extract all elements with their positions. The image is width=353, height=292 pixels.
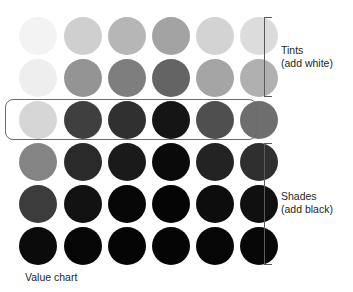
swatch-tint-2-column-3	[108, 17, 146, 55]
tints-label-title: Tints	[281, 44, 333, 57]
swatch-tint-2-column-1	[19, 17, 57, 55]
swatch-hue-column-6	[240, 101, 278, 139]
swatch-tint-2-column-4	[152, 17, 190, 55]
figure-caption: Value chart	[25, 271, 77, 284]
swatch-shade-1-column-2	[64, 143, 102, 181]
swatch-hue-column-2	[64, 101, 102, 139]
swatch-shade-3-column-5	[196, 227, 234, 265]
swatch-shade-3-column-4	[152, 227, 190, 265]
swatch-shade-1-column-5	[196, 143, 234, 181]
shades-label-title: Shades	[281, 190, 333, 203]
swatch-tint-1-column-1	[19, 59, 57, 97]
swatch-tint-1-column-6	[240, 59, 278, 97]
shades-bracket	[264, 143, 272, 265]
swatch-grid	[0, 0, 270, 270]
value-chart-figure: Tints (add white) Shades (add black) Val…	[0, 0, 353, 292]
swatch-tint-2-column-5	[196, 17, 234, 55]
swatch-row-tint-1	[0, 59, 270, 99]
swatch-tint-1-column-4	[152, 59, 190, 97]
swatch-shade-3-column-6	[240, 227, 278, 265]
swatch-hue-column-3	[108, 101, 146, 139]
swatch-tint-1-column-2	[64, 59, 102, 97]
swatch-row-shade-2	[0, 185, 270, 225]
swatch-row-shade-1	[0, 143, 270, 183]
swatch-shade-2-column-5	[196, 185, 234, 223]
swatch-shade-1-column-4	[152, 143, 190, 181]
swatch-shade-2-column-1	[19, 185, 57, 223]
swatch-shade-1-column-1	[19, 143, 57, 181]
swatch-hue-column-4	[152, 101, 190, 139]
tints-label-subtitle: (add white)	[281, 57, 333, 70]
swatch-tint-1-column-3	[108, 59, 146, 97]
swatch-shade-3-column-1	[19, 227, 57, 265]
swatch-hue-column-1	[19, 101, 57, 139]
swatch-tint-1-column-5	[196, 59, 234, 97]
swatch-shade-3-column-2	[64, 227, 102, 265]
tints-label: Tints (add white)	[281, 44, 333, 70]
swatch-shade-3-column-3	[108, 227, 146, 265]
swatch-row-tint-2	[0, 17, 270, 57]
swatch-row-hue	[0, 101, 270, 141]
swatch-tint-2-column-2	[64, 17, 102, 55]
tints-bracket	[264, 17, 272, 97]
swatch-shade-2-column-3	[108, 185, 146, 223]
swatch-shade-2-column-2	[64, 185, 102, 223]
swatch-shade-2-column-4	[152, 185, 190, 223]
swatch-shade-1-column-3	[108, 143, 146, 181]
swatch-shade-1-column-6	[240, 143, 278, 181]
shades-label-subtitle: (add black)	[281, 203, 333, 216]
swatch-row-shade-3	[0, 227, 270, 267]
shades-label: Shades (add black)	[281, 190, 333, 216]
swatch-shade-2-column-6	[240, 185, 278, 223]
swatch-hue-column-5	[196, 101, 234, 139]
swatch-tint-2-column-6	[240, 17, 278, 55]
